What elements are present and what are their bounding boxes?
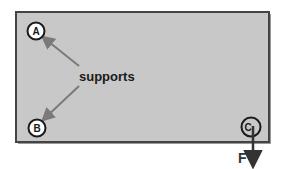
node-a: A: [28, 23, 45, 40]
node-c-label: C: [244, 122, 251, 133]
node-c: C: [242, 118, 261, 137]
plate: [16, 12, 271, 144]
force-label: F: [238, 150, 247, 166]
plate-diagram: supports A B C F: [0, 0, 286, 169]
node-a-label: A: [32, 26, 39, 37]
node-b-label: B: [33, 123, 40, 134]
supports-label: supports: [79, 69, 135, 84]
node-b: B: [29, 120, 46, 137]
